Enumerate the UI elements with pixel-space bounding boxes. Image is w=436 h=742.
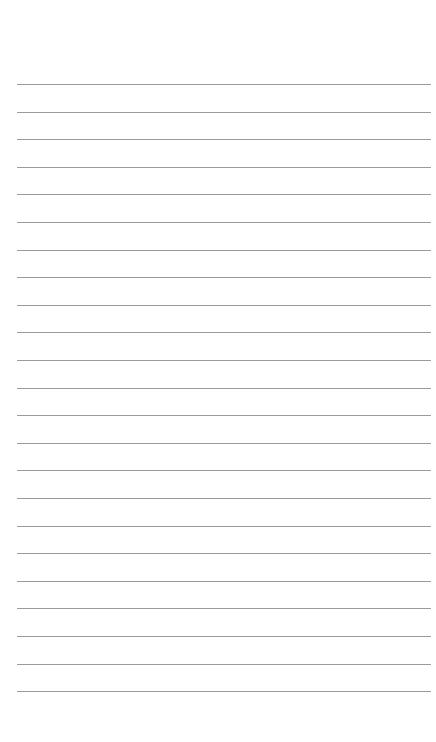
ruled-line [17,581,431,582]
ruled-line [17,84,431,85]
ruled-line [17,222,431,223]
lined-paper-page [0,0,436,742]
ruled-line [17,443,431,444]
ruled-line [17,167,431,168]
ruled-line [17,608,431,609]
ruled-line [17,498,431,499]
ruled-line [17,664,431,665]
ruled-line [17,139,431,140]
ruled-line [17,415,431,416]
ruled-line [17,526,431,527]
ruled-line [17,194,431,195]
ruled-line [17,360,431,361]
ruled-line [17,277,431,278]
ruled-line [17,691,431,692]
ruled-line [17,112,431,113]
ruled-line [17,470,431,471]
ruled-line [17,388,431,389]
ruled-line [17,305,431,306]
ruled-line [17,636,431,637]
ruled-line [17,332,431,333]
ruled-line [17,250,431,251]
ruled-line [17,553,431,554]
